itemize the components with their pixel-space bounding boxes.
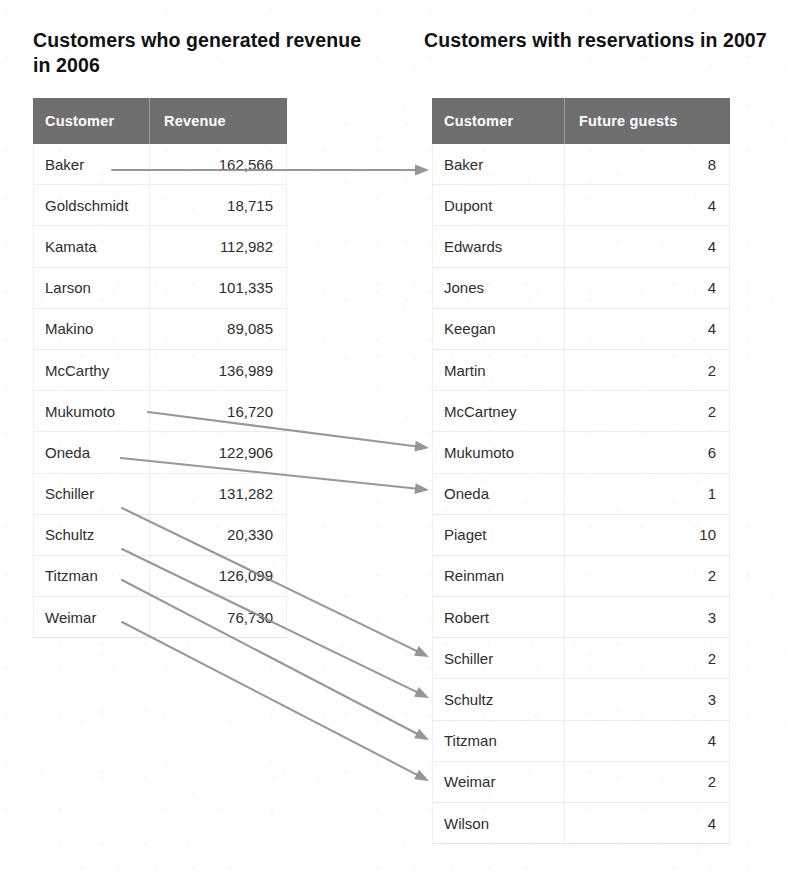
table-row[interactable]: Baker8 — [432, 144, 730, 185]
cell-customer-name: Larson — [33, 279, 149, 296]
table-row[interactable]: Kamata112,982 — [33, 226, 287, 267]
cell-value: 4 — [564, 279, 730, 296]
cell-value: 3 — [564, 609, 730, 626]
cell-customer-name: Wilson — [432, 815, 564, 832]
cell-value: 89,085 — [149, 320, 287, 337]
cell-customer-name: Titzman — [432, 732, 564, 749]
cell-customer-name: Piaget — [432, 526, 564, 543]
cell-value: 2 — [564, 650, 730, 667]
table-row[interactable]: Oneda1 — [432, 474, 730, 515]
cell-value: 3 — [564, 691, 730, 708]
cell-value: 20,330 — [149, 526, 287, 543]
cell-value: 4 — [564, 732, 730, 749]
cell-value: 126,099 — [149, 567, 287, 584]
cell-value: 4 — [564, 815, 730, 832]
column-header-customer[interactable]: Customer — [33, 113, 149, 129]
table-row[interactable]: Schiller131,282 — [33, 474, 287, 515]
table-row[interactable]: Titzman4 — [432, 721, 730, 762]
column-header-customer[interactable]: Customer — [432, 113, 564, 129]
table-row[interactable]: Keegan4 — [432, 309, 730, 350]
cell-customer-name: Schiller — [33, 485, 149, 502]
cell-customer-name: Jones — [432, 279, 564, 296]
cell-customer-name: Mukumoto — [432, 444, 564, 461]
revenue-table-header-row: Customer Revenue — [33, 98, 287, 144]
cell-value: 16,720 — [149, 403, 287, 420]
table-row[interactable]: Robert3 — [432, 597, 730, 638]
table-row[interactable]: Dupont4 — [432, 185, 730, 226]
column-header-revenue[interactable]: Revenue — [150, 113, 226, 129]
cell-value: 4 — [564, 197, 730, 214]
cell-customer-name: Weimar — [432, 773, 564, 790]
reservations-table-body: Baker8Dupont4Edwards4Jones4Keegan4Martin… — [432, 144, 730, 844]
cell-customer-name: Dupont — [432, 197, 564, 214]
cell-value: 4 — [564, 238, 730, 255]
cell-value: 112,982 — [149, 238, 287, 255]
arrow-weimar-to-weimar — [122, 622, 429, 781]
table-row[interactable]: Martin2 — [432, 350, 730, 391]
reservations-table: Customer Future guests Baker8Dupont4Edwa… — [432, 98, 730, 844]
table-row[interactable]: Reinman2 — [432, 556, 730, 597]
table-row[interactable]: Goldschmidt18,715 — [33, 185, 287, 226]
table-row[interactable]: Oneda122,906 — [33, 432, 287, 473]
table-row[interactable]: Piaget10 — [432, 515, 730, 556]
cell-customer-name: Oneda — [33, 444, 149, 461]
right-panel-heading: Customers with reservations in 2007 — [424, 28, 784, 53]
cell-customer-name: McCarthy — [33, 362, 149, 379]
cell-value: 2 — [564, 403, 730, 420]
reservations-table-header-row: Customer Future guests — [432, 98, 730, 144]
cell-customer-name: Weimar — [33, 609, 149, 626]
cell-value: 18,715 — [149, 197, 287, 214]
left-panel-heading: Customers who generated revenue in 2006 — [33, 28, 363, 78]
table-row[interactable]: Weimar2 — [432, 762, 730, 803]
cell-customer-name: Schiller — [432, 650, 564, 667]
cell-customer-name: Martin — [432, 362, 564, 379]
cell-value: 2 — [564, 773, 730, 790]
cell-customer-name: Kamata — [33, 238, 149, 255]
table-row[interactable]: Jones4 — [432, 268, 730, 309]
cell-customer-name: Schultz — [33, 526, 149, 543]
table-row[interactable]: Mukumoto16,720 — [33, 391, 287, 432]
table-row[interactable]: Schultz20,330 — [33, 515, 287, 556]
table-row[interactable]: Schultz3 — [432, 679, 730, 720]
table-row[interactable]: Baker162,566 — [33, 144, 287, 185]
column-header-future-guests[interactable]: Future guests — [565, 113, 677, 129]
table-row[interactable]: Schiller2 — [432, 638, 730, 679]
table-row[interactable]: McCartney2 — [432, 391, 730, 432]
revenue-table-body: Baker162,566Goldschmidt18,715Kamata112,9… — [33, 144, 287, 638]
cell-customer-name: Edwards — [432, 238, 564, 255]
cell-value: 8 — [564, 156, 730, 173]
cell-value: 1 — [564, 485, 730, 502]
cell-customer-name: Keegan — [432, 320, 564, 337]
cell-value: 2 — [564, 362, 730, 379]
cell-value: 76,730 — [149, 609, 287, 626]
cell-value: 136,989 — [149, 362, 287, 379]
cell-value: 131,282 — [149, 485, 287, 502]
cell-customer-name: Reinman — [432, 567, 564, 584]
cell-value: 162,566 — [149, 156, 287, 173]
cell-customer-name: Makino — [33, 320, 149, 337]
cell-customer-name: Mukumoto — [33, 403, 149, 420]
cell-value: 10 — [564, 526, 730, 543]
table-row[interactable]: Weimar76,730 — [33, 597, 287, 638]
cell-customer-name: Oneda — [432, 485, 564, 502]
cell-value: 101,335 — [149, 279, 287, 296]
table-row[interactable]: Mukumoto6 — [432, 432, 730, 473]
table-row[interactable]: McCarthy136,989 — [33, 350, 287, 391]
table-row[interactable]: Titzman126,099 — [33, 556, 287, 597]
cell-customer-name: Schultz — [432, 691, 564, 708]
revenue-table: Customer Revenue Baker162,566Goldschmidt… — [33, 98, 287, 638]
table-row[interactable]: Larson101,335 — [33, 268, 287, 309]
table-row[interactable]: Wilson4 — [432, 803, 730, 844]
cell-customer-name: Goldschmidt — [33, 197, 149, 214]
cell-customer-name: Baker — [33, 156, 149, 173]
table-row[interactable]: Edwards4 — [432, 226, 730, 267]
cell-value: 2 — [564, 567, 730, 584]
cell-value: 4 — [564, 320, 730, 337]
cell-customer-name: Robert — [432, 609, 564, 626]
cell-customer-name: Titzman — [33, 567, 149, 584]
cell-customer-name: Baker — [432, 156, 564, 173]
cell-value: 122,906 — [149, 444, 287, 461]
cell-value: 6 — [564, 444, 730, 461]
table-row[interactable]: Makino89,085 — [33, 309, 287, 350]
cell-customer-name: McCartney — [432, 403, 564, 420]
